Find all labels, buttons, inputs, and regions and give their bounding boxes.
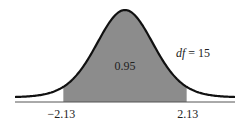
df-label: df = 15 [176, 46, 210, 60]
probability-label: 0.95 [115, 59, 136, 73]
shaded-area-0.95 [63, 10, 186, 102]
tick-label-lower: −2.13 [47, 107, 75, 121]
tick-label-upper: 2.13 [177, 107, 198, 121]
t-distribution-chart: 0.95 df = 15 −2.13 2.13 [0, 0, 249, 125]
df-label-value: = 15 [185, 46, 210, 60]
